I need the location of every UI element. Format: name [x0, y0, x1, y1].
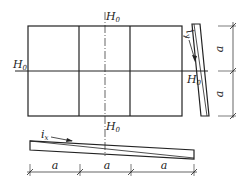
- dim-horizontal-3: a: [161, 159, 168, 172]
- label-slope-ix: ix: [41, 128, 49, 142]
- slope-diagram: H0 H0 H0 H0 ix iy a a a a a: [0, 0, 251, 187]
- iy-arrowhead-icon: [192, 55, 197, 62]
- bottom-slope-diagonal: [30, 141, 194, 158]
- label-h0-top: H0: [105, 10, 121, 24]
- label-h0-left: H0: [12, 58, 28, 72]
- dim-horizontal-1: a: [52, 159, 59, 172]
- label-h0-bottom: H0: [105, 120, 121, 134]
- dim-vertical-1: a: [213, 46, 226, 53]
- label-h0-right: H0: [186, 73, 202, 87]
- dim-horizontal-2: a: [104, 159, 111, 172]
- ix-arrowhead-icon: [66, 138, 73, 142]
- dim-vertical-2: a: [213, 91, 226, 98]
